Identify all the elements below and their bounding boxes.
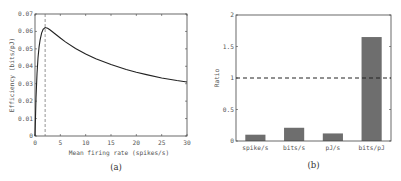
x-tick-label: bits/s	[283, 144, 306, 151]
y-tick-label: 0.01	[18, 115, 33, 122]
bar-spike-per-s	[245, 135, 265, 141]
bars	[245, 37, 381, 141]
panel-a-line-chart: 05101520253000.010.020.030.040.050.060.0…	[8, 10, 191, 172]
y-tick-label: 0.06	[18, 27, 33, 34]
x-tick-label: 0	[33, 139, 37, 146]
x-tick-label: 10	[82, 139, 90, 146]
y-tick-label: 0.02	[18, 97, 33, 104]
bar-pJ-per-s	[323, 133, 343, 141]
x-tick-label: 20	[133, 139, 141, 146]
y-axis-label: Ratio	[213, 68, 220, 87]
y-tick-label: 1	[230, 74, 234, 81]
bar-bits-per-pJ	[362, 37, 382, 141]
y-tick-label: 0.05	[18, 45, 33, 52]
y-tick-label: 0.07	[18, 10, 33, 17]
efficiency-curve	[35, 28, 187, 136]
y-tick-label: 2	[230, 11, 234, 18]
panel-b-bar-chart: spike/sbits/spJ/sbits/pJ00.511.52 Ratio …	[213, 11, 391, 170]
y-tick-label: 0	[29, 132, 33, 139]
x-tick-label: bits/pJ	[359, 144, 385, 152]
x-tick-label: 15	[107, 139, 115, 146]
panel-label: (b)	[307, 160, 319, 170]
x-tick-label: 5	[58, 139, 62, 146]
x-tick-label: 30	[183, 139, 191, 146]
y-tick-label: 0	[230, 137, 234, 144]
y-tick-label: 0.04	[18, 62, 33, 69]
y-tick-label: 0.5	[223, 106, 234, 113]
y-tick-label: 1.5	[223, 43, 234, 50]
plot-frame	[35, 14, 187, 136]
figure: 05101520253000.010.020.030.040.050.060.0…	[0, 0, 401, 181]
y-tick-label: 0.03	[18, 80, 33, 87]
x-axis-label: Mean firing rate (spikes/s)	[69, 149, 170, 157]
panel-label: (a)	[110, 162, 122, 172]
y-axis-label: Efficiency (bits/pJ)	[8, 38, 16, 113]
x-tick-label: 25	[158, 139, 166, 146]
x-tick-label: spike/s	[242, 144, 268, 152]
bar-bits-per-s	[284, 128, 304, 141]
x-tick-label: pJ/s	[325, 144, 340, 152]
